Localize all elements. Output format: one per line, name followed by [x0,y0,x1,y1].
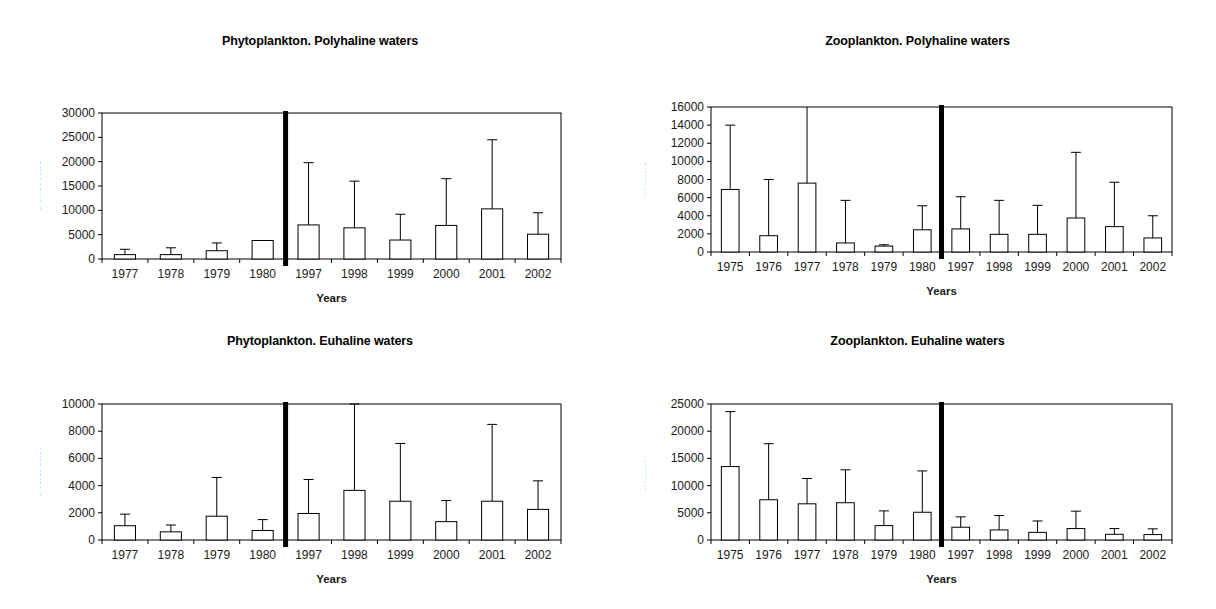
bar-group [252,241,273,259]
bar-group [798,107,816,252]
x-category-label: 1978 [832,260,859,274]
bar [990,530,1008,540]
y-axis-title: Ind/m3 [645,453,647,490]
bar [721,467,739,540]
bar [252,241,273,259]
x-category-label: 2002 [525,548,552,562]
x-category-label: 2002 [1139,548,1166,562]
bar-group [1067,511,1085,540]
y-axis-title: Cells/cm3 [40,445,42,499]
chart-panel-phyto-poly: Phytoplankton. Polyhaline waters05000100… [40,34,600,304]
bar [436,522,457,540]
bar-group [344,181,365,259]
x-category-label: 1998 [341,548,368,562]
bar [482,501,503,540]
bar-group [837,200,855,252]
bar-group [875,245,893,252]
bar-group [913,206,931,252]
x-axis-title: Years [926,285,957,297]
x-category-label: 1980 [909,548,936,562]
x-category-label: 1997 [947,260,974,274]
bar [798,183,816,252]
x-category-label: 1978 [157,267,184,281]
bar-group [344,404,365,540]
chart-title: Zooplankton. Polyhaline waters [645,34,1190,48]
bar [1029,234,1047,252]
x-category-label: 2002 [1139,260,1166,274]
bar-group [837,470,855,540]
bar-group [114,249,135,259]
x-category-label: 2001 [479,548,506,562]
bar [114,255,135,259]
y-tick-label: 6000 [677,191,704,205]
bar-group [1067,152,1085,252]
chart-panel-zoo-eu: Zooplankton. Euhaline waters050001000015… [645,334,1190,602]
bar [298,225,319,259]
x-category-label: 1978 [157,548,184,562]
y-tick-label: 0 [88,252,95,266]
x-axis-title: Years [926,573,957,585]
bar [344,490,365,540]
x-category-label: 1979 [871,548,898,562]
bar [390,240,411,259]
bar [344,228,365,259]
bar-group [160,248,181,259]
y-tick-label: 12000 [671,136,705,150]
x-category-label: 1975 [717,260,744,274]
x-category-label: 1980 [249,548,276,562]
x-category-label: 1979 [203,267,230,281]
x-category-label: 2001 [1101,260,1128,274]
x-category-label: 1998 [341,267,368,281]
bar [1106,227,1124,252]
x-axis-title: Years [316,573,347,585]
bar [952,527,970,540]
x-category-label: 2000 [1063,260,1090,274]
y-tick-label: 5000 [68,228,95,242]
y-tick-label: 2000 [68,506,95,520]
y-axis-title: Cells/cm3 [40,159,42,213]
bar [527,234,548,259]
chart-panel-zoo-poly: Zooplankton. Polyhaline waters0200040006… [645,34,1190,304]
y-tick-label: 15000 [671,451,705,465]
bar [160,255,181,259]
x-category-label: 1977 [112,267,139,281]
bar-group [252,520,273,540]
y-tick-label: 8000 [68,424,95,438]
bar [252,530,273,540]
y-tick-label: 16000 [671,100,705,114]
x-category-label: 1979 [203,548,230,562]
y-tick-label: 20000 [671,424,705,438]
bar-group [1029,521,1047,540]
x-category-label: 1998 [986,548,1013,562]
x-category-label: 1999 [1024,260,1051,274]
x-category-label: 1997 [295,267,322,281]
x-category-label: 1980 [249,267,276,281]
x-category-label: 1978 [832,548,859,562]
bar-group [990,200,1008,252]
chart-title: Phytoplankton. Euhaline waters [40,334,600,348]
bar-group [390,443,411,540]
bar [436,225,457,259]
x-category-label: 2001 [1101,548,1128,562]
bar-group [952,197,970,252]
bar-group [1144,529,1162,540]
y-tick-label: 14000 [671,118,705,132]
y-tick-label: 15000 [62,179,96,193]
y-tick-label: 30000 [62,106,96,120]
y-tick-label: 10000 [671,154,705,168]
x-category-label: 2000 [1063,548,1090,562]
y-tick-label: 5000 [677,506,704,520]
bar [114,526,135,540]
bar-group [527,481,548,540]
y-tick-label: 6000 [68,451,95,465]
x-category-label: 1997 [947,548,974,562]
bar [160,532,181,540]
bar [1029,532,1047,540]
bar-group [436,179,457,259]
bar [913,512,931,540]
x-category-label: 1976 [755,548,782,562]
chart-title: Zooplankton. Euhaline waters [645,334,1190,348]
x-category-label: 1999 [387,548,414,562]
bar [952,229,970,252]
x-category-label: 1977 [794,548,821,562]
